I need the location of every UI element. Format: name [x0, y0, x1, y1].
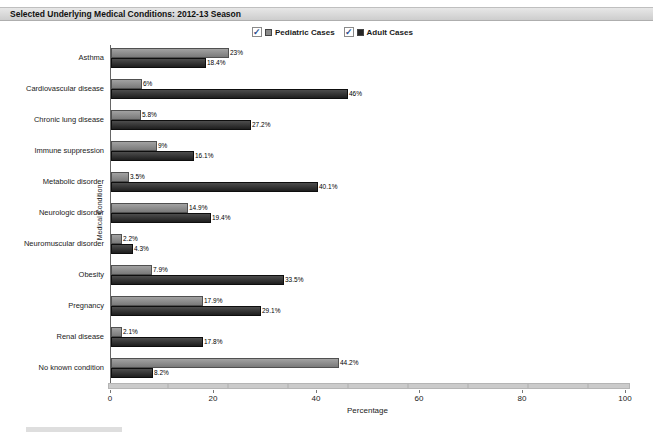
bar-value-label: 2.2%: [123, 234, 138, 244]
adult-bar[interactable]: [111, 306, 261, 316]
x-axis-tick-label: 0: [108, 394, 112, 403]
bar-group: Neurologic disorder14.9%19.4%: [0, 203, 653, 223]
pediatric-bar[interactable]: [111, 141, 157, 151]
adult-bar[interactable]: [111, 213, 211, 223]
pediatric-bar[interactable]: [111, 110, 141, 120]
bar-value-label: 46%: [349, 89, 362, 99]
category-label: Asthma: [0, 48, 104, 68]
bar-group: Neuromuscular disorder2.2%4.3%: [0, 234, 653, 254]
adult-bar[interactable]: [111, 151, 194, 161]
bar-group: Renal disease2.1%17.8%: [0, 327, 653, 347]
adult-bar[interactable]: [111, 89, 348, 99]
bar-value-label: 17.9%: [204, 296, 222, 306]
category-label: Neuromuscular disorder: [0, 234, 104, 254]
pediatric-bar[interactable]: [111, 358, 339, 368]
bar-value-label: 19.4%: [212, 213, 230, 223]
adult-bar[interactable]: [111, 58, 206, 68]
bar-group: Chronic lung disease5.8%27.2%: [0, 110, 653, 130]
category-label: Chronic lung disease: [0, 110, 104, 130]
x-axis-tick-label: 100: [618, 394, 631, 403]
adult-bar[interactable]: [111, 275, 284, 285]
bar-group: Immune suppression9%16.1%: [0, 141, 653, 161]
bar-value-label: 44.2%: [340, 358, 358, 368]
x-axis-tick-label: 80: [518, 394, 527, 403]
legend-label: Adult Cases: [367, 28, 413, 37]
pediatric-bar[interactable]: [111, 234, 122, 244]
category-label: Pregnancy: [0, 296, 104, 316]
x-axis-tick-label: 40: [312, 394, 321, 403]
bar-group: Cardiovascular disease6%46%: [0, 79, 653, 99]
bar-group: No known condition44.2%8.2%: [0, 358, 653, 378]
bar-group: Obesity7.9%33.5%: [0, 265, 653, 285]
category-label: Neurologic disorder: [0, 203, 104, 223]
bar-value-label: 8.2%: [154, 368, 169, 378]
cropped-bottom-artifact: [26, 427, 122, 432]
x-axis-tick: [625, 390, 626, 393]
category-label: Obesity: [0, 265, 104, 285]
bar-value-label: 3.5%: [130, 172, 145, 182]
chart-legend: ✓Pediatric Cases✓Adult Cases: [252, 26, 413, 38]
x-axis-tick: [110, 390, 111, 393]
bar-value-label: 17.8%: [204, 337, 222, 347]
pediatric-bar[interactable]: [111, 48, 229, 58]
bar-value-label: 29.1%: [262, 306, 280, 316]
bar-value-label: 9%: [158, 141, 167, 151]
pediatric-bar[interactable]: [111, 172, 129, 182]
x-axis-tick-label: 60: [415, 394, 424, 403]
bar-value-label: 18.4%: [207, 58, 225, 68]
bar-value-label: 27.2%: [252, 120, 270, 130]
pediatric-bar[interactable]: [111, 79, 142, 89]
legend-checkbox-pediatric[interactable]: ✓: [252, 27, 262, 37]
legend-item-adult: ✓Adult Cases: [344, 27, 413, 37]
bar-group: Metabolic disorder3.5%40.1%: [0, 172, 653, 192]
pediatric-bar[interactable]: [111, 265, 152, 275]
x-axis-tick: [213, 390, 214, 393]
bar-group: Asthma23%18.4%: [0, 48, 653, 68]
legend-swatch-icon: [357, 29, 364, 36]
adult-bar[interactable]: [111, 244, 133, 254]
bar-value-label: 7.9%: [153, 265, 168, 275]
x-axis-tick: [316, 390, 317, 393]
bar-group: Pregnancy17.9%29.1%: [0, 296, 653, 316]
pediatric-bar[interactable]: [111, 203, 188, 213]
bar-value-label: 23%: [230, 48, 243, 58]
adult-bar[interactable]: [111, 182, 318, 192]
x-axis-tick: [522, 390, 523, 393]
bar-value-label: 14.9%: [189, 203, 207, 213]
adult-bar[interactable]: [111, 120, 251, 130]
bar-value-label: 40.1%: [319, 182, 337, 192]
legend-item-pediatric: ✓Pediatric Cases: [252, 27, 335, 37]
x-axis-title: Percentage: [110, 406, 625, 415]
adult-bar[interactable]: [111, 368, 153, 378]
chart-panel: Selected Underlying Medical Conditions: …: [0, 0, 653, 433]
x-axis-tick-label: 20: [209, 394, 218, 403]
category-label: Metabolic disorder: [0, 172, 104, 192]
legend-checkbox-adult[interactable]: ✓: [344, 27, 354, 37]
bar-value-label: 4.3%: [134, 244, 149, 254]
legend-label: Pediatric Cases: [275, 28, 335, 37]
bar-value-label: 6%: [143, 79, 152, 89]
x-axis-track: [108, 383, 630, 389]
bar-value-label: 2.1%: [123, 327, 138, 337]
bar-value-label: 16.1%: [195, 151, 213, 161]
pediatric-bar[interactable]: [111, 327, 122, 337]
category-label: Immune suppression: [0, 141, 104, 161]
bar-value-label: 33.5%: [285, 275, 303, 285]
panel-title: Selected Underlying Medical Conditions: …: [0, 7, 653, 21]
adult-bar[interactable]: [111, 337, 203, 347]
bar-value-label: 5.8%: [142, 110, 157, 120]
pediatric-bar[interactable]: [111, 296, 203, 306]
category-label: No known condition: [0, 358, 104, 378]
category-label: Renal disease: [0, 327, 104, 347]
legend-swatch-icon: [265, 29, 272, 36]
x-axis-tick: [419, 390, 420, 393]
category-label: Cardiovascular disease: [0, 79, 104, 99]
